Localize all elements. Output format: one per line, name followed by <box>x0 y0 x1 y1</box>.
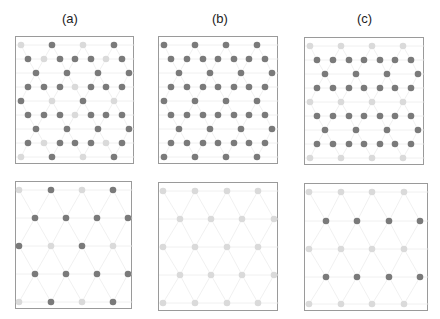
occupied-site-dot <box>262 56 269 63</box>
occupied-site-dot <box>361 85 368 92</box>
vacant-site-dot <box>192 188 199 195</box>
occupied-site-dot <box>161 154 168 161</box>
occupied-site-dot <box>354 274 361 281</box>
occupied-site-dot <box>246 56 253 63</box>
occupied-site-dot <box>88 112 95 119</box>
occupied-site-dot <box>330 57 337 64</box>
occupied-site-dot <box>386 218 393 225</box>
vacant-site-dot <box>369 43 376 50</box>
occupied-site-dot <box>200 140 207 147</box>
panel-a-top <box>15 36 134 164</box>
occupied-site-dot <box>184 84 191 91</box>
occupied-site-dot <box>25 84 32 91</box>
occupied-site-dot <box>49 154 56 161</box>
occupied-site-dot <box>41 84 48 91</box>
occupied-site-dot <box>384 127 391 134</box>
occupied-site-dot <box>126 126 133 133</box>
vacant-site-dot <box>224 244 231 251</box>
occupied-site-dot <box>215 112 222 119</box>
vacant-site-dot <box>18 42 25 49</box>
occupied-site-dot <box>262 84 269 91</box>
occupied-site-dot <box>126 70 133 77</box>
vacant-site-dot <box>307 155 314 162</box>
occupied-site-dot <box>119 140 126 147</box>
vacant-site-dot <box>338 246 345 253</box>
occupied-site-dot <box>330 141 337 148</box>
occupied-site-dot <box>415 127 422 134</box>
occupied-site-dot <box>246 112 253 119</box>
vacant-site-dot <box>79 299 86 306</box>
occupied-site-dot <box>330 113 337 120</box>
occupied-site-dot <box>346 85 353 92</box>
occupied-site-dot <box>95 70 102 77</box>
vacant-site-dot <box>338 189 345 196</box>
occupied-site-dot <box>176 70 183 77</box>
occupied-site-dot <box>314 57 321 64</box>
occupied-site-dot <box>262 140 269 147</box>
vacant-site-dot <box>239 216 246 223</box>
vacant-site-dot <box>338 99 345 106</box>
occupied-site-dot <box>231 84 238 91</box>
occupied-site-dot <box>384 71 391 78</box>
occupied-site-dot <box>231 56 238 63</box>
occupied-site-dot <box>346 57 353 64</box>
vacant-site-dot <box>224 188 231 195</box>
occupied-site-dot <box>125 271 132 278</box>
occupied-site-dot <box>119 84 126 91</box>
vacant-site-dot <box>307 99 314 106</box>
occupied-site-dot <box>64 70 71 77</box>
vacant-site-dot <box>255 188 262 195</box>
occupied-site-dot <box>408 85 415 92</box>
occupied-site-dot <box>161 98 168 105</box>
occupied-site-dot <box>88 84 95 91</box>
occupied-site-dot <box>408 141 415 148</box>
occupied-site-dot <box>57 140 64 147</box>
vacant-site-dot <box>271 272 278 279</box>
occupied-site-dot <box>392 85 399 92</box>
occupied-site-dot <box>377 141 384 148</box>
occupied-site-dot <box>207 126 214 133</box>
occupied-site-dot <box>254 98 261 105</box>
occupied-site-dot <box>223 42 230 49</box>
occupied-site-dot <box>192 98 199 105</box>
occupied-site-dot <box>200 84 207 91</box>
vacant-site-dot <box>192 300 199 307</box>
occupied-site-dot <box>386 274 393 281</box>
occupied-site-dot <box>223 98 230 105</box>
vacant-site-dot <box>177 216 184 223</box>
vacant-site-dot <box>401 301 408 308</box>
vacant-site-dot <box>160 244 167 251</box>
occupied-site-dot <box>254 154 261 161</box>
occupied-site-dot <box>119 112 126 119</box>
occupied-site-dot <box>95 126 102 133</box>
occupied-site-dot <box>64 126 71 133</box>
vacant-site-dot <box>400 155 407 162</box>
occupied-site-dot <box>254 42 261 49</box>
occupied-site-dot <box>238 70 245 77</box>
panel-b-top <box>158 36 278 164</box>
occupied-site-dot <box>361 113 368 120</box>
occupied-site-dot <box>168 140 175 147</box>
occupied-site-dot <box>215 84 222 91</box>
vacant-site-dot <box>41 56 48 63</box>
vacant-site-dot <box>306 189 313 196</box>
occupied-site-dot <box>94 271 101 278</box>
occupied-site-dot <box>184 112 191 119</box>
occupied-site-dot <box>408 113 415 120</box>
occupied-site-dot <box>18 98 25 105</box>
occupied-site-dot <box>392 113 399 120</box>
occupied-site-dot <box>63 215 70 222</box>
occupied-site-dot <box>361 57 368 64</box>
occupied-site-dot <box>111 154 118 161</box>
vacant-site-dot <box>369 301 376 308</box>
occupied-site-dot <box>314 113 321 120</box>
occupied-site-dot <box>161 42 168 49</box>
occupied-site-dot <box>168 84 175 91</box>
occupied-site-dot <box>168 56 175 63</box>
occupied-site-dot <box>231 140 238 147</box>
occupied-site-dot <box>269 126 276 133</box>
occupied-site-dot <box>111 42 118 49</box>
vacant-site-dot <box>369 155 376 162</box>
vacant-site-dot <box>80 154 87 161</box>
occupied-site-dot <box>417 218 424 225</box>
